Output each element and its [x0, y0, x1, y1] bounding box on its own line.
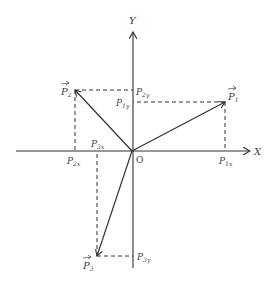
vector-p2 — [75, 90, 132, 151]
svg-text:P2: P2 — [60, 86, 72, 98]
vector-p1-label: P1 — [227, 86, 239, 103]
vector-arrow-icon — [83, 255, 91, 259]
vector-p1 — [132, 102, 225, 151]
svg-text:P1: P1 — [227, 91, 239, 103]
p2x-label: P2x — [66, 156, 81, 167]
vector-p3-label: P3 — [82, 255, 94, 272]
p1y-label: P1y — [115, 98, 130, 110]
svg-text:P3: P3 — [82, 260, 94, 272]
p1x-label: P1x — [218, 156, 233, 167]
vector-diagram: Y X O P1 P2 P3 P2y P1y P3x P2x P1x P3y — [0, 0, 274, 283]
vector-p2-label: P2 — [60, 81, 72, 98]
y-axis-label: Y — [129, 15, 137, 26]
vector-arrow-icon — [228, 86, 236, 90]
x-axis-label: X — [253, 146, 262, 157]
p3y-label: P3y — [136, 252, 151, 264]
vector-arrow-icon — [61, 81, 69, 85]
vector-p3 — [97, 151, 132, 256]
origin-label: O — [136, 155, 143, 165]
p3x-label: P3x — [90, 139, 105, 150]
p2y-label: P2y — [135, 87, 150, 99]
